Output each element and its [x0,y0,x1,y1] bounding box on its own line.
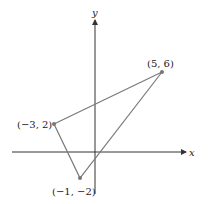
vertex-label-a: (5, 6) [147,58,174,69]
vertex-point-c [78,176,82,180]
y-axis-label: y [91,7,98,18]
vertex-label-c: (−1, −2) [52,186,96,197]
coordinate-plane: x y (5, 6) (−3, 2) (−1, −2) [0,0,208,204]
x-axis-label: x [189,147,195,158]
vertex-point-b [52,122,56,126]
vertex-label-b: (−3, 2) [17,119,52,130]
triangle [54,72,162,178]
vertex-point-a [160,70,164,74]
